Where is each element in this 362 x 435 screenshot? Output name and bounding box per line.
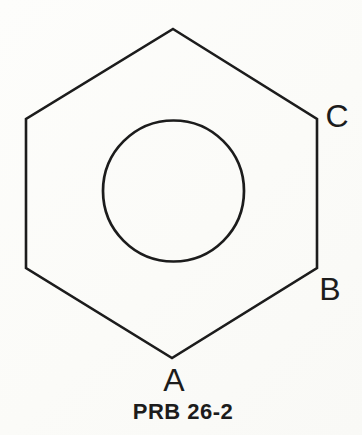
scanned-page: C B A PRB 26-2 bbox=[0, 0, 362, 435]
figure-caption: PRB 26-2 bbox=[133, 399, 234, 424]
vertex-label-b: B bbox=[319, 271, 340, 307]
hexagon-outline bbox=[26, 29, 317, 358]
hexagon-circle-figure: C B A PRB 26-2 bbox=[0, 0, 362, 435]
inner-circle bbox=[103, 121, 244, 262]
vertex-label-c: C bbox=[325, 98, 348, 134]
vertex-label-a: A bbox=[163, 362, 185, 398]
